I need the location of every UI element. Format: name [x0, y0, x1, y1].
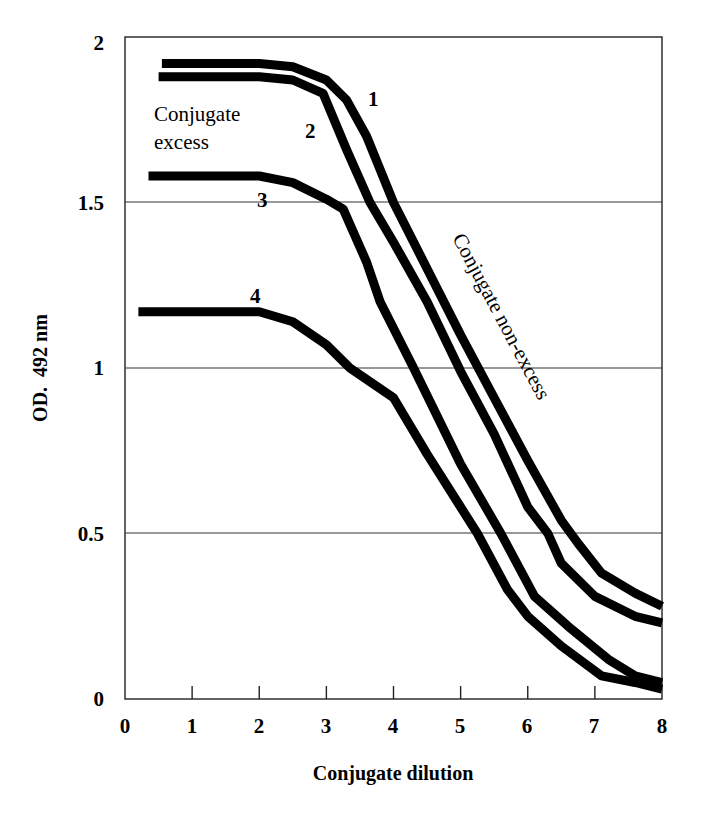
x-tick-1: 1	[187, 714, 198, 738]
x-tick-0: 0	[120, 714, 131, 738]
curve-label-4: 4	[250, 284, 261, 308]
annotation-conjugate-excess-line2: excess	[154, 130, 209, 154]
x-tick-6: 6	[522, 714, 533, 738]
x-tick-2: 2	[254, 714, 265, 738]
x-tick-3: 3	[321, 714, 332, 738]
y-axis-title: OD. 492 nm	[29, 314, 51, 422]
y-axis-tick-labels: 0 0.5 1 1.5 2	[78, 31, 104, 711]
y-tick-0: 0	[94, 687, 105, 711]
y-tick-1: 1	[94, 356, 105, 380]
gridlines	[125, 202, 662, 533]
y-tick-1.5: 1.5	[78, 191, 104, 215]
y-tick-2: 2	[94, 31, 105, 55]
curve-2	[159, 77, 662, 623]
y-tick-0.5: 0.5	[78, 522, 104, 546]
curve-label-2: 2	[305, 119, 316, 143]
x-tick-7: 7	[589, 714, 600, 738]
curve-label-3: 3	[257, 188, 268, 212]
x-tick-8: 8	[657, 714, 668, 738]
chart: 0 0.5 1 1.5 2 0 1 2 3 4 5 6 7 8 Conjugat…	[0, 0, 702, 814]
data-series	[138, 64, 662, 690]
x-tick-5: 5	[455, 714, 466, 738]
x-tick-4: 4	[388, 714, 399, 738]
x-axis-ticks	[192, 686, 595, 699]
annotation-conjugate-excess-line1: Conjugate	[154, 102, 240, 126]
x-axis-tick-labels: 0 1 2 3 4 5 6 7 8	[120, 714, 668, 738]
curve-label-1: 1	[368, 87, 379, 111]
x-axis-title: Conjugate dilution	[313, 762, 474, 785]
curve-3	[149, 176, 663, 683]
curve-1	[162, 64, 662, 607]
